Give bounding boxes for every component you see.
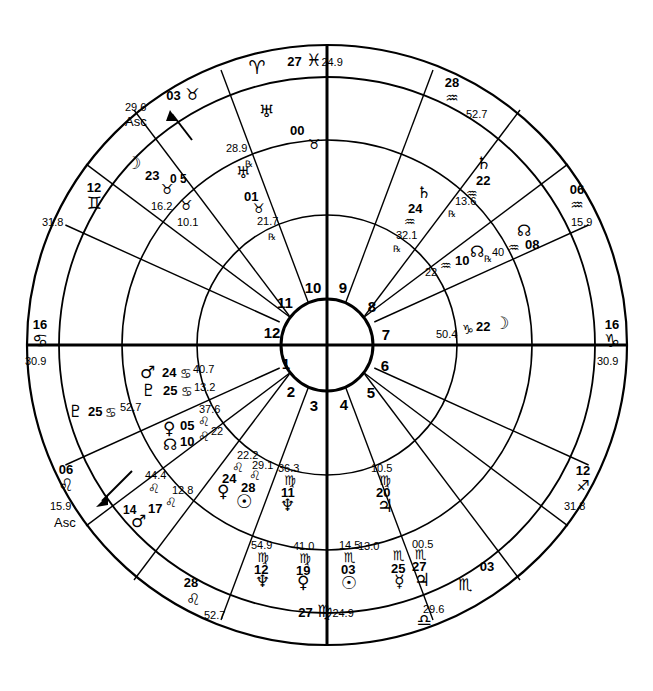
house-number-10: 10 [305,280,322,295]
planet-saturn-outer-retro: ℞ [448,204,456,220]
house-number-9: 9 [339,280,347,295]
planet-uranus-inner-retro: ℞ [268,227,276,243]
point-leo14-sign: ♌ [148,480,160,496]
planet-pluto-outer-sign: ♋ [105,404,117,420]
house-number-12: 12 [264,325,281,340]
cusp-2-outer-min: 31.8 [564,497,585,513]
sign-scorpio-lower: ♏ [458,577,472,593]
mc-degree: 27 ♓24.9 [287,52,343,69]
planet-uranus-outer-sign: ♉ [308,136,321,152]
house-number-1: 1 [282,356,290,371]
asc-arrow-upper [160,108,200,148]
cusp-3-outer-min: 29.6 [423,600,444,616]
planet-mars-asc-deg: 17 [148,500,162,516]
cusp-5-outer-min: 52.7 [204,606,225,622]
planet-sun-min: 14.5 [339,536,360,552]
planet-node-leo-min: 22 [211,422,223,438]
asc-label-lower: Asc [54,514,76,530]
cusp-asc-outer: 03 ♉ [166,87,199,103]
planet-jupiter2-min: 10.5 [371,459,392,475]
planet-uranus-outer-min: 28.9 [226,139,247,155]
planet-moon-inner-sign: ♑ [462,321,474,337]
asc-label-upper: Asc [125,113,147,129]
planet-pluto-inner-sign: ♋ [181,383,193,399]
point-taurus05-min: 10.1 [177,213,198,229]
cusp-asc-inner: 06 ♌ [58,461,73,495]
planet-pluto-inner-glyph: ♇ [141,382,156,399]
planet-moon-inner-min: 50.4 [436,325,457,341]
point-leo14-min: 44.4 [145,466,166,482]
planet-venus-leo-deg: 05 [180,417,194,433]
house-number-5: 5 [367,385,375,400]
cusp-2-outer: 12 ♐ [576,462,590,495]
planet-saturn-inner-glyph: ♄ [417,185,431,201]
house-number-7: 7 [382,327,390,342]
cusp-asc-inner-min: 15.9 [50,497,71,513]
planet-saturn-outer-min: 13.6 [455,192,476,208]
planet-mars-sign: ♋ [180,365,192,381]
planet-moon-inner-glyph: ☽ [494,315,509,332]
planet-mars-asc-min: 12.8 [172,481,193,497]
planet-pluto-outer-deg: 25 [88,403,102,419]
sign-leo-lower: ♌ [186,592,200,608]
planet-moon-outer-glyph: ☽ [126,155,141,172]
cusp-asc-outer-min: 29.6 [125,98,146,114]
cusp-11-outer-min: 52.7 [466,105,487,121]
planet-moon-outer-deg: 23 [145,167,159,183]
sign-aries: ♈ [248,58,265,77]
point-taurus05-sign: ♉ [180,197,193,213]
house-number-6: 6 [381,358,389,373]
cusp-5-outer: 28 [184,574,198,590]
cusp-desc-min: 30.9 [597,352,618,368]
cusp-desc: 16 ♑ [604,316,620,351]
planet-node-outer-retro: ℞ [484,249,492,265]
planet-mars-deg: 24 [162,364,176,380]
planet-pluto-inner-deg: 25 [163,382,177,398]
planet-pluto-inner-min: 13.2 [194,378,215,394]
house-number-3: 3 [310,398,318,413]
planet-venus-leo-min: 37.6 [199,400,220,416]
planet-node-leo-sign: ♌ [198,428,210,444]
planet-node-outer-deg: 08 [525,236,539,252]
house-number-8: 8 [368,299,376,314]
house-number-4: 4 [340,397,348,412]
planet-mercury-min: 13.0 [386,557,407,573]
planet-uranus-outer-deg: 00 [290,122,304,138]
planet-node-inner-sign: ♒ [440,257,452,273]
cusp-8-outer: 12 ♊ [86,179,101,213]
planet-saturn-inner-retro: ℞ [393,239,401,255]
planet-jupiter-min: 00.5 [412,535,433,551]
point-taurus05-deg: 0 5 [170,170,187,186]
ic-degree: 27 ♍24.9 [298,603,354,620]
planet-saturn-outer-deg: 22 [476,172,490,188]
point-leo14-deg: 14 [123,501,136,517]
chart-wheel [0,0,653,691]
planet-mars-glyph: ♂ [140,364,155,381]
planet-node-inner-glyph: ☊ [470,244,484,260]
cusp-3-outer: 03 [480,558,494,574]
cusp-7-outer: 16 ♋ [32,316,48,351]
planet-neptune-min: 54.9 [251,536,272,552]
planet-saturn-outer-glyph: ♄ [476,155,491,172]
planet-uranus-inner-min: 21.7 [257,212,278,228]
house-number-11: 11 [277,295,293,310]
planet-node-outer-min: 40 [492,243,504,259]
planet-node-leo-glyph: ☊ [163,437,177,453]
planet-mars-min: 40.7 [193,360,214,376]
planet-moon-outer-min: 16.2 [151,197,172,213]
cusp-11-outer: 28 ♒ [445,74,459,107]
planet-node-outer-sign: ♒ [508,239,520,255]
planet-moon-inner-deg: 22 [476,318,490,334]
planet-node-leo-deg: 10 [180,433,194,449]
planet-pluto-outer-min: 52.7 [120,398,141,414]
cusp-8-outer-min: 31.8 [42,213,63,229]
planet-uranus-outer-glyph: ♅ [259,103,274,120]
planet-node-inner-min: 22 [425,263,437,279]
planet-node-inner-deg: 10 [455,252,469,268]
planet-uranus-inner-glyph: ♅ [236,165,250,181]
planet-venus-min: 41.0 [293,537,314,553]
cusp-7-outer-min: 30.9 [25,352,46,368]
planet-sun2-min: 29.1 [252,456,273,472]
planet-neptune2-min: 36.3 [278,459,299,475]
cusp-12-outer: 06 ♒ [570,181,584,214]
